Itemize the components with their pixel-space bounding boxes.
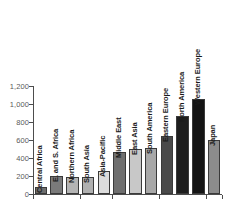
bar-category-label: E. and S. Africa [51, 129, 60, 182]
y-axis-tick-labels: 02004006008001,0001,200 [0, 0, 29, 207]
x-axis-tick-mark [206, 195, 207, 199]
x-axis-tick-mark [159, 195, 160, 199]
bar-category-label: Japan [208, 125, 217, 146]
y-axis-tick-label: 800 [16, 118, 29, 127]
x-axis-tick-mark [33, 195, 34, 199]
x-axis-tick-mark [80, 195, 81, 199]
bar-category-label: North America [177, 72, 186, 122]
y-axis-tick-label: 1,200 [10, 82, 29, 91]
bar-category-label: Western Europe [193, 49, 202, 105]
bar-category-label: Central Africa [35, 145, 44, 193]
bar-category-label: South Asia [82, 145, 91, 183]
x-axis-tick-mark [222, 195, 223, 199]
bar-category-label: Middle East [114, 118, 123, 159]
x-axis-line [33, 194, 222, 195]
x-axis-tick-mark [112, 195, 113, 199]
y-axis-tick-label: 1,000 [10, 100, 29, 109]
bar-category-label: South America [145, 102, 154, 153]
y-axis-tick-label: 200 [16, 172, 29, 181]
bar-category-label: Eastern Europe [161, 88, 170, 142]
y-axis-tick-label: 400 [16, 154, 29, 163]
bar-category-labels: Central AfricaE. and S. AfricaNorthern A… [33, 0, 222, 194]
bar-category-label: East Asia [130, 122, 139, 155]
bar-category-label: Northern Africa [67, 130, 76, 183]
bar-category-label: Asia-Pacific [98, 135, 107, 176]
y-axis-tick-label: 600 [16, 136, 29, 145]
bar-chart: 02004006008001,0001,200 Central AfricaE.… [0, 0, 226, 207]
